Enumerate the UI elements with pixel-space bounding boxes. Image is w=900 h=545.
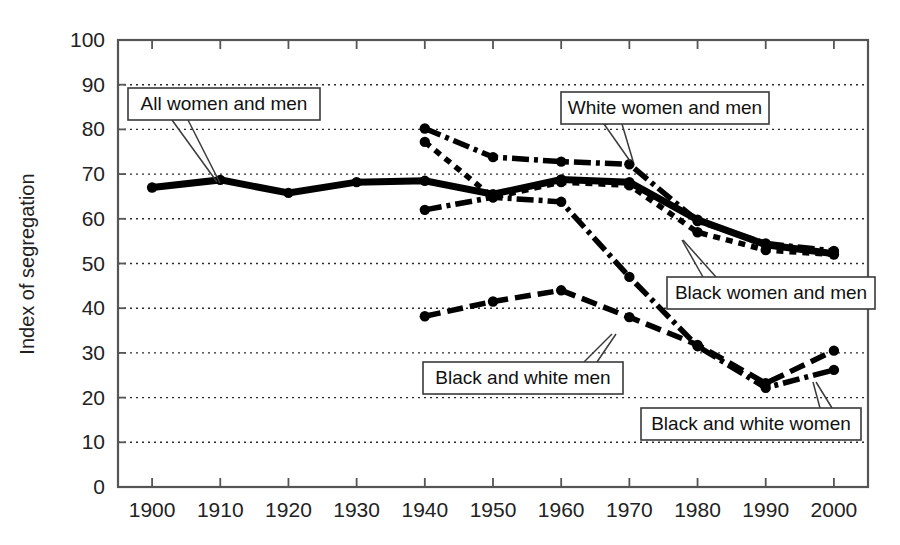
segregation-index-chart: 0102030405060708090100 19001910192019301… bbox=[0, 0, 900, 545]
callout-leader-line bbox=[597, 334, 616, 362]
y-tick-label-10: 10 bbox=[82, 430, 105, 453]
callout-1: White women and men bbox=[561, 92, 769, 161]
y-tick-labels: 0102030405060708090100 bbox=[70, 28, 105, 498]
y-tick-label-70: 70 bbox=[82, 162, 105, 185]
callout-leader-line bbox=[584, 334, 612, 362]
data-point bbox=[829, 249, 839, 259]
data-point bbox=[420, 137, 430, 147]
data-point bbox=[624, 272, 634, 282]
y-axis-title: Index of segregation bbox=[16, 173, 38, 354]
callout-label: All women and men bbox=[141, 93, 308, 114]
data-point bbox=[692, 341, 702, 351]
data-point bbox=[761, 245, 771, 255]
callout-label: White women and men bbox=[568, 97, 762, 118]
y-tick-label-50: 50 bbox=[82, 252, 105, 275]
y-tick-label-40: 40 bbox=[82, 296, 105, 319]
x-tick-label-1910: 1910 bbox=[197, 498, 244, 521]
data-point bbox=[692, 227, 702, 237]
data-point bbox=[624, 180, 634, 190]
x-tick-label-1940: 1940 bbox=[401, 498, 448, 521]
data-point bbox=[624, 312, 634, 322]
data-point bbox=[488, 296, 498, 306]
y-tick-label-100: 100 bbox=[70, 28, 105, 51]
data-point bbox=[283, 188, 293, 198]
x-tick-label-1930: 1930 bbox=[333, 498, 380, 521]
callout-2: Black women and men bbox=[667, 240, 875, 309]
data-point bbox=[147, 182, 157, 192]
data-point bbox=[556, 197, 566, 207]
y-tick-label-90: 90 bbox=[82, 73, 105, 96]
x-tick-label-1900: 1900 bbox=[129, 498, 176, 521]
data-point bbox=[556, 156, 566, 166]
y-tick-label-30: 30 bbox=[82, 341, 105, 364]
callout-label: Black women and men bbox=[675, 282, 867, 303]
y-tick-label-0: 0 bbox=[93, 475, 105, 498]
data-point bbox=[761, 383, 771, 393]
callout-3: Black and white men bbox=[423, 334, 623, 394]
data-point bbox=[488, 152, 498, 162]
data-point bbox=[351, 177, 361, 187]
x-tick-label-1960: 1960 bbox=[538, 498, 585, 521]
callout-leader-line bbox=[172, 120, 217, 182]
data-point bbox=[420, 123, 430, 133]
y-tick-label-60: 60 bbox=[82, 207, 105, 230]
x-tick-label-2000: 2000 bbox=[811, 498, 858, 521]
data-point bbox=[420, 176, 430, 186]
chart-canvas: 0102030405060708090100 19001910192019301… bbox=[0, 0, 900, 545]
data-point bbox=[556, 177, 566, 187]
data-point bbox=[692, 216, 702, 226]
y-tick-label-20: 20 bbox=[82, 386, 105, 409]
x-tick-labels: 1900191019201930194019501960197019801990… bbox=[129, 498, 858, 521]
x-tick-label-1990: 1990 bbox=[742, 498, 789, 521]
callout-label: Black and white men bbox=[435, 367, 610, 388]
data-point bbox=[488, 192, 498, 202]
data-point bbox=[420, 311, 430, 321]
x-tick-label-1970: 1970 bbox=[606, 498, 653, 521]
callout-0: All women and men bbox=[128, 88, 320, 183]
x-tick-label-1950: 1950 bbox=[470, 498, 517, 521]
data-series-layer bbox=[152, 129, 834, 388]
data-point bbox=[420, 205, 430, 215]
data-point bbox=[829, 365, 839, 375]
data-point bbox=[556, 285, 566, 295]
x-tick-label-1920: 1920 bbox=[265, 498, 312, 521]
x-tick-label-1980: 1980 bbox=[674, 498, 721, 521]
y-tick-label-80: 80 bbox=[82, 117, 105, 140]
callout-leader-line bbox=[622, 124, 633, 161]
data-point bbox=[829, 345, 839, 355]
callout-4: Black and white women bbox=[641, 382, 861, 440]
callout-label: Black and white women bbox=[651, 413, 851, 434]
y-axis-title-group: Index of segregation bbox=[16, 173, 38, 354]
